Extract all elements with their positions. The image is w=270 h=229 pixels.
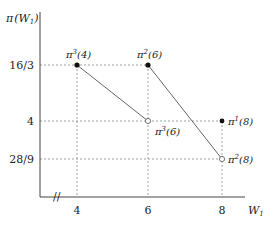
- x-tick-6: 6: [145, 204, 152, 217]
- label-pi3-4: π3(4): [65, 48, 91, 60]
- guide-lines: [40, 65, 222, 197]
- axis-break-mark: //: [53, 190, 61, 203]
- label-pi2-6: π2(6): [136, 48, 162, 60]
- point-pi2-6: [145, 62, 150, 67]
- point-pi2-8: [219, 156, 224, 161]
- y-tick-16-3: 16/3: [9, 59, 34, 72]
- point-pi1-8: [220, 119, 225, 124]
- y-axis-title: π(W1): [5, 12, 39, 26]
- series-pi2-line: [148, 65, 222, 159]
- label-pi2-8: π2(8): [227, 153, 253, 165]
- x-tick-4: 4: [74, 204, 81, 217]
- y-tick-28-9: 28/9: [9, 153, 34, 166]
- series-pi3-line: [77, 65, 148, 121]
- point-pi3-4: [74, 62, 79, 67]
- label-pi1-8: π1(8): [227, 115, 253, 127]
- label-pi3-6: π3(6): [154, 125, 180, 137]
- y-tick-4: 4: [27, 115, 34, 128]
- x-tick-8: 8: [219, 204, 226, 217]
- x-axis-title: W1: [248, 204, 264, 218]
- chart: // π(W1) 16/3 4 28/9 4 6 8 W1 π3(4) π2(6…: [0, 0, 270, 229]
- point-pi3-6: [145, 118, 150, 123]
